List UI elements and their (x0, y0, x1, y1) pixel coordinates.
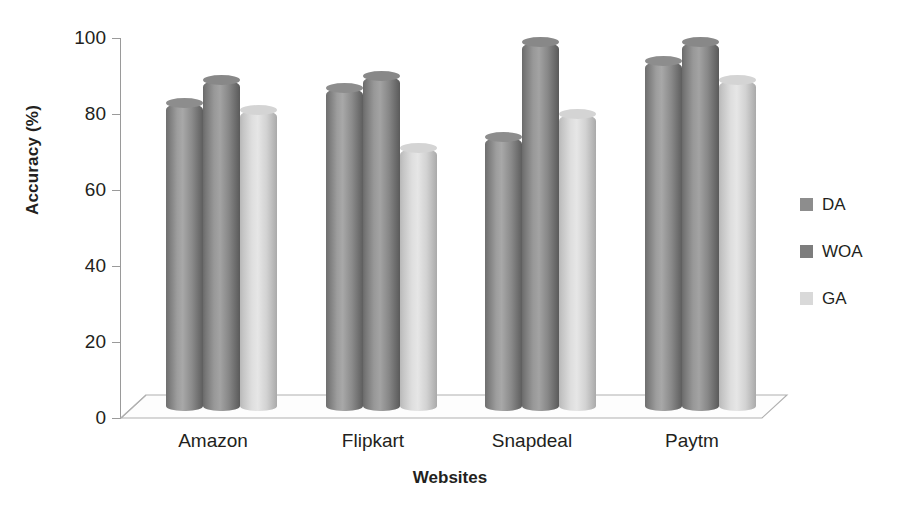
bar-cap (485, 132, 522, 142)
legend-item-woa[interactable]: WOA (800, 243, 863, 259)
bar-paytm-da (645, 61, 682, 411)
bar-amazon-woa (203, 80, 240, 411)
x-axis-label-snapdeal: Snapdeal (452, 430, 612, 452)
bar-flipkart-ga (400, 148, 437, 410)
legend-item-ga[interactable]: GA (800, 290, 863, 306)
x-axis-label-paytm: Paytm (612, 430, 772, 452)
bar-flipkart-woa (363, 76, 400, 410)
bar-cap (400, 143, 437, 153)
chart-legend: DAWOAGA (800, 196, 863, 337)
bar-cap (719, 75, 756, 85)
legend-label: WOA (822, 243, 863, 260)
bar-flipkart-da (326, 88, 363, 411)
bar-paytm-ga (719, 80, 756, 411)
bar-snapdeal-ga (559, 114, 596, 410)
bar-cap (326, 83, 363, 93)
bar-snapdeal-da (485, 137, 522, 411)
bar-cap (203, 75, 240, 85)
chart-container: Accuracy (%) Websites 020406080100 Amazo… (0, 0, 915, 510)
legend-swatch-woa (800, 245, 813, 258)
x-axis-label-flipkart: Flipkart (293, 430, 453, 452)
legend-swatch-da (800, 198, 813, 211)
legend-label: GA (822, 290, 847, 307)
bar-cap (240, 105, 277, 115)
bar-cap (645, 56, 682, 66)
legend-label: DA (822, 196, 846, 213)
bar-cap (363, 71, 400, 81)
bar-cap (682, 37, 719, 47)
bar-amazon-ga (240, 110, 277, 410)
legend-item-da[interactable]: DA (800, 196, 863, 212)
bar-cap (522, 37, 559, 47)
legend-swatch-ga (800, 292, 813, 305)
bar-cap (166, 98, 203, 108)
bar-paytm-woa (682, 42, 719, 411)
bar-snapdeal-woa (522, 42, 559, 411)
bar-cap (559, 109, 596, 119)
x-axis-label-amazon: Amazon (133, 430, 293, 452)
bar-amazon-da (166, 103, 203, 411)
